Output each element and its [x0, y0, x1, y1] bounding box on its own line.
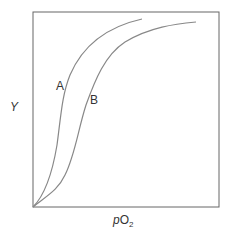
- x-axis-o: O: [120, 213, 129, 227]
- chart: [0, 0, 229, 234]
- y-axis-label: Y: [10, 100, 18, 114]
- x-axis-label: pO2: [113, 213, 133, 229]
- curve-b: [33, 22, 196, 207]
- curve-a-label: A: [56, 79, 64, 93]
- curve-a: [33, 19, 142, 207]
- x-axis-sub: 2: [129, 220, 133, 229]
- x-axis-p: p: [113, 213, 120, 227]
- curve-b-label: B: [90, 93, 98, 107]
